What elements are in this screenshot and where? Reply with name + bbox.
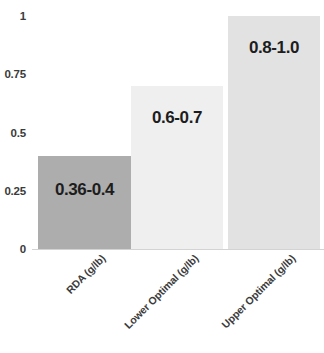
plot-area: 0.36-0.4 0.6-0.7 0.8-1.0 — [32, 16, 324, 249]
x-label-text: RDA (g/lb) — [64, 252, 108, 296]
x-label-text: Lower Optimal (g/lb) — [122, 252, 201, 331]
x-label-text: Upper Optimal (g/lb) — [219, 252, 297, 330]
y-axis: 1 0.75 0.5 0.25 0 — [0, 0, 32, 353]
bar-chart: 1 0.75 0.5 0.25 0 0.36-0.4 0.6-0.7 0.8-1… — [0, 0, 324, 353]
bar-series: 0.36-0.4 0.6-0.7 0.8-1.0 — [32, 16, 324, 249]
y-tick-label: 0.75 — [4, 68, 26, 80]
bar-lower-optimal[interactable]: 0.6-0.7 — [131, 86, 223, 249]
bar-value-label: 0.8-1.0 — [228, 38, 320, 58]
y-tick-label: 0 — [20, 243, 26, 255]
y-tick-label: 0.5 — [11, 127, 26, 139]
bar-value-label: 0.36-0.4 — [38, 180, 131, 200]
x-axis-labels: RDA (g/lb) Lower Optimal (g/lb) Upper Op… — [32, 252, 324, 353]
bar-value-label: 0.6-0.7 — [131, 108, 223, 128]
y-tick-label: 0.25 — [4, 185, 26, 197]
y-tick-label: 1 — [20, 10, 26, 22]
x-axis-line — [32, 249, 324, 250]
